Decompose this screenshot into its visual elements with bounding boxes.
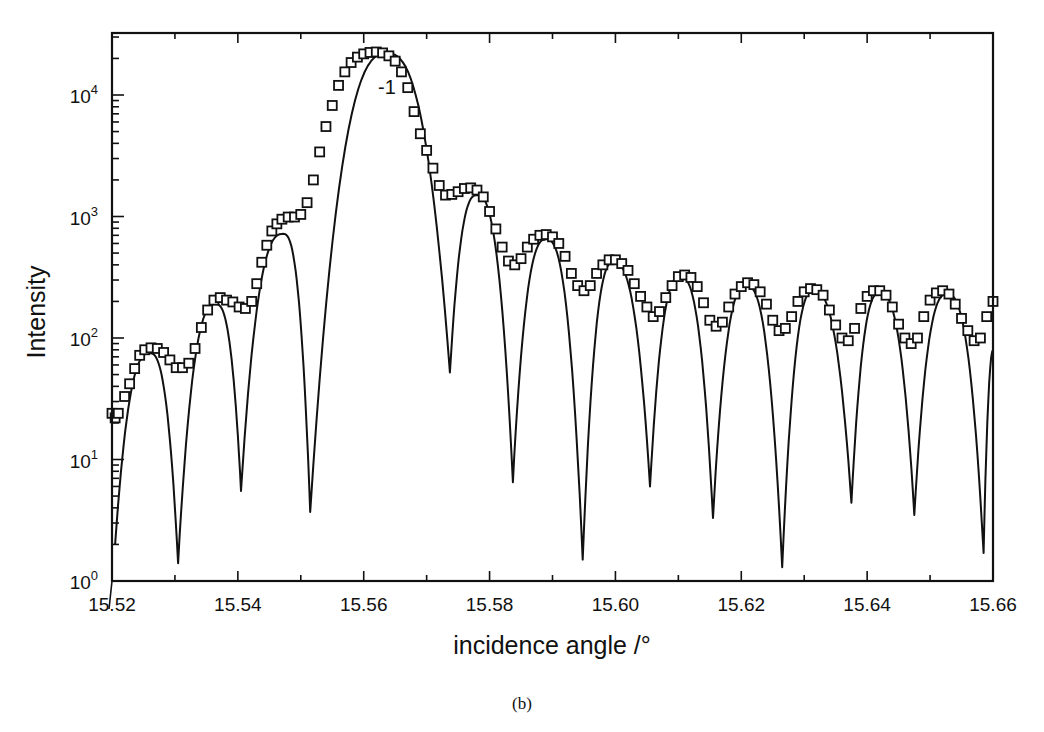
x-tick-label: 15.64 bbox=[843, 594, 891, 615]
measured-point bbox=[661, 293, 670, 302]
measured-point bbox=[567, 269, 576, 278]
measured-point bbox=[787, 312, 796, 321]
measured-point bbox=[125, 379, 134, 388]
measured-point bbox=[913, 334, 922, 343]
measured-point bbox=[888, 302, 897, 311]
x-tick-label: 15.56 bbox=[340, 594, 388, 615]
x-tick-label: 15.58 bbox=[466, 594, 514, 615]
measured-point bbox=[491, 224, 500, 233]
measured-point bbox=[428, 164, 437, 173]
measured-point bbox=[422, 146, 431, 155]
x-tick-label: 15.62 bbox=[718, 594, 766, 615]
measured-point bbox=[554, 239, 563, 248]
measured-point bbox=[850, 324, 859, 333]
measured-point bbox=[668, 281, 677, 290]
measured-point bbox=[844, 336, 853, 345]
x-tick-label: 15.54 bbox=[214, 594, 262, 615]
measured-point bbox=[699, 298, 708, 307]
measured-point bbox=[781, 324, 790, 333]
measured-point bbox=[296, 210, 305, 219]
measured-point bbox=[334, 81, 343, 90]
measured-point bbox=[982, 312, 991, 321]
measured-point bbox=[303, 198, 312, 207]
measured-point bbox=[963, 326, 972, 335]
figure-caption: (b) bbox=[0, 694, 1044, 714]
measured-point bbox=[819, 291, 828, 300]
measured-point bbox=[247, 297, 256, 306]
measured-point bbox=[718, 318, 727, 327]
measured-point bbox=[416, 129, 425, 138]
measured-point bbox=[636, 292, 645, 301]
chart: 15.5215.5415.5615.5815.6015.6215.6415.66… bbox=[0, 0, 1044, 732]
measured-point bbox=[191, 344, 200, 353]
measured-point bbox=[976, 334, 985, 343]
measured-point bbox=[856, 304, 865, 313]
measured-point bbox=[485, 207, 494, 216]
measured-point bbox=[793, 297, 802, 306]
measured-point bbox=[768, 316, 777, 325]
measured-point bbox=[825, 306, 834, 315]
measured-point bbox=[321, 122, 330, 131]
axes: 15.5215.5415.5615.5815.6015.6215.6415.66… bbox=[70, 33, 1017, 615]
measured-point bbox=[391, 57, 400, 66]
measured-point bbox=[435, 181, 444, 190]
x-axis-title: incidence angle /° bbox=[453, 631, 651, 659]
measured-point bbox=[262, 241, 271, 250]
measured-point bbox=[315, 147, 324, 156]
measured-point bbox=[951, 300, 960, 309]
peak-annotation: -1 bbox=[378, 76, 396, 98]
measured-point bbox=[693, 282, 702, 291]
measured-point bbox=[130, 364, 139, 373]
measured-point bbox=[252, 279, 261, 288]
y-tick-label: 104 bbox=[70, 82, 98, 107]
measured-point bbox=[561, 252, 570, 261]
measured-point bbox=[184, 359, 193, 368]
measured-point bbox=[328, 101, 337, 110]
measured-point bbox=[114, 409, 123, 418]
x-tick-label: 15.52 bbox=[88, 594, 136, 615]
measured-point bbox=[257, 258, 266, 267]
measured-point bbox=[919, 312, 928, 321]
measured-point bbox=[197, 323, 206, 332]
y-tick-label: 103 bbox=[70, 204, 98, 229]
measured-point bbox=[894, 320, 903, 329]
measured-point bbox=[397, 67, 406, 76]
plot-area bbox=[108, 47, 998, 567]
measured-point bbox=[403, 83, 412, 92]
measured-point bbox=[479, 192, 488, 201]
measured-point bbox=[831, 320, 840, 329]
measured-point bbox=[756, 287, 765, 296]
x-tick-label: 15.66 bbox=[969, 594, 1017, 615]
measured-point bbox=[957, 314, 966, 323]
measured-point bbox=[642, 302, 651, 311]
measured-point bbox=[340, 67, 349, 76]
y-tick-label: 102 bbox=[70, 325, 98, 350]
y-axis-title: Intensity bbox=[22, 265, 50, 359]
measured-point bbox=[686, 273, 695, 282]
x-tick-label: 15.60 bbox=[592, 594, 640, 615]
measured-point bbox=[498, 243, 507, 252]
measured-point bbox=[724, 302, 733, 311]
measured-point bbox=[309, 175, 318, 184]
measured-point bbox=[203, 306, 212, 315]
y-tick-label: 101 bbox=[70, 447, 98, 472]
measured-point bbox=[410, 107, 419, 116]
measured-point bbox=[592, 269, 601, 278]
measured-point bbox=[630, 279, 639, 288]
measured-point bbox=[517, 254, 526, 263]
measured-point bbox=[944, 290, 953, 299]
measured-point bbox=[655, 307, 664, 316]
measured-point bbox=[586, 281, 595, 290]
measured-point bbox=[882, 291, 891, 300]
y-tick-label: 100 bbox=[70, 568, 98, 593]
measured-point bbox=[120, 392, 129, 401]
measured-point bbox=[762, 300, 771, 309]
measured-point bbox=[624, 266, 633, 275]
